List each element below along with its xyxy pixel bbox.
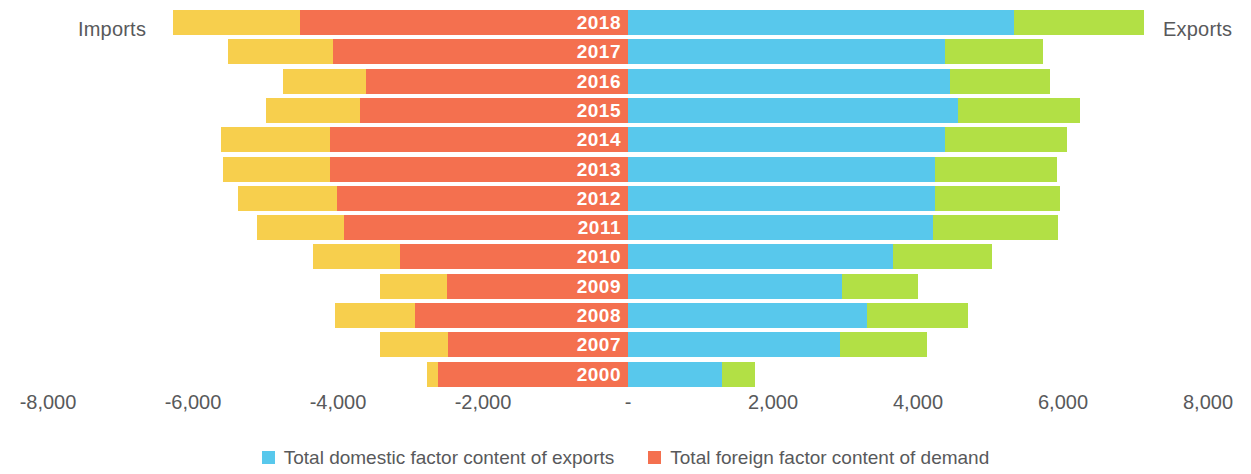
x-axis-tick-label: 4,000 (893, 392, 943, 412)
x-axis: -8,000-6,000-4,000-2,000-2,0004,0006,000… (0, 392, 1251, 420)
bar-segment-foreign-outer (228, 39, 333, 64)
bar-segment-foreign-outer (238, 186, 337, 211)
bar-segment-total-domestic-factor-content-of-exports (628, 10, 1014, 35)
bar-segment-foreign-outer (313, 244, 400, 269)
bar-segment-domestic-outer (1014, 10, 1144, 35)
bar-segment-total-domestic-factor-content-of-exports (628, 39, 945, 64)
bar-segment-total-foreign-factor-content-of-demand (438, 362, 628, 387)
x-axis-tick-label: -8,000 (20, 392, 77, 412)
bar-segment-total-foreign-factor-content-of-demand (300, 10, 628, 35)
bar-segment-domestic-outer (958, 98, 1080, 123)
bar-segment-total-domestic-factor-content-of-exports (628, 69, 950, 94)
x-axis-tick-label: 8,000 (1183, 392, 1233, 412)
bar-segment-domestic-outer (945, 39, 1043, 64)
bar-segment-total-domestic-factor-content-of-exports (628, 127, 945, 152)
bar-segment-foreign-outer (427, 362, 438, 387)
bar-segment-total-foreign-factor-content-of-demand (415, 303, 628, 328)
bar-segment-total-foreign-factor-content-of-demand (447, 274, 628, 299)
bar-segment-foreign-outer (223, 157, 330, 182)
x-axis-tick-label: - (625, 392, 632, 412)
bar-segment-domestic-outer (950, 69, 1050, 94)
bar-segment-foreign-outer (335, 303, 415, 328)
bar-row: 2018 (0, 10, 1251, 35)
bar-segment-total-foreign-factor-content-of-demand (360, 98, 628, 123)
bar-segment-domestic-outer (935, 157, 1057, 182)
bar-segment-total-domestic-factor-content-of-exports (628, 215, 933, 240)
bar-segment-domestic-outer (935, 186, 1060, 211)
bar-segment-total-domestic-factor-content-of-exports (628, 362, 722, 387)
bar-row: 2013 (0, 157, 1251, 182)
bar-row: 2017 (0, 39, 1251, 64)
bar-segment-domestic-outer (933, 215, 1058, 240)
bar-segment-total-domestic-factor-content-of-exports (628, 274, 842, 299)
bar-segment-domestic-outer (945, 127, 1067, 152)
bar-segment-total-domestic-factor-content-of-exports (628, 186, 935, 211)
bar-row: 2015 (0, 98, 1251, 123)
bar-segment-total-foreign-factor-content-of-demand (337, 186, 628, 211)
bar-row: 2008 (0, 303, 1251, 328)
legend-swatch-icon (262, 451, 275, 464)
bar-segment-foreign-outer (380, 274, 447, 299)
bar-segment-domestic-outer (722, 362, 755, 387)
bar-segment-total-foreign-factor-content-of-demand (366, 69, 628, 94)
bar-segment-domestic-outer (842, 274, 918, 299)
bar-row: 2007 (0, 332, 1251, 357)
bar-segment-total-foreign-factor-content-of-demand (333, 39, 628, 64)
bar-row: 2016 (0, 69, 1251, 94)
bar-row: 2000 (0, 362, 1251, 387)
bar-segment-total-domestic-factor-content-of-exports (628, 98, 958, 123)
chart-legend: Total domestic factor content of exports… (0, 443, 1251, 471)
bar-segment-foreign-outer (266, 98, 360, 123)
bar-row: 2012 (0, 186, 1251, 211)
bar-segment-total-foreign-factor-content-of-demand (330, 157, 628, 182)
diverging-stacked-bar-chart: Imports Exports 201820172016201520142013… (0, 0, 1251, 474)
bar-segment-total-domestic-factor-content-of-exports (628, 332, 840, 357)
bar-row: 2014 (0, 127, 1251, 152)
bar-segment-total-domestic-factor-content-of-exports (628, 157, 935, 182)
legend-item: Total domestic factor content of exports (262, 448, 615, 467)
x-axis-tick-label: -4,000 (310, 392, 367, 412)
x-axis-tick-label: 6,000 (1038, 392, 1088, 412)
legend-label: Total foreign factor content of demand (670, 448, 989, 467)
bar-segment-foreign-outer (257, 215, 344, 240)
bar-segment-total-foreign-factor-content-of-demand (344, 215, 628, 240)
bar-row: 2011 (0, 215, 1251, 240)
legend-item: Total foreign factor content of demand (648, 448, 989, 467)
bar-segment-total-foreign-factor-content-of-demand (448, 332, 628, 357)
bar-segment-total-foreign-factor-content-of-demand (400, 244, 628, 269)
plot-area: 2018201720162015201420132012201120102009… (0, 10, 1251, 390)
x-axis-tick-label: -2,000 (455, 392, 512, 412)
bar-segment-foreign-outer (173, 10, 300, 35)
legend-label: Total domestic factor content of exports (284, 448, 615, 467)
bar-segment-total-foreign-factor-content-of-demand (330, 127, 628, 152)
bar-segment-domestic-outer (840, 332, 927, 357)
bar-segment-foreign-outer (221, 127, 330, 152)
bar-row: 2010 (0, 244, 1251, 269)
bar-segment-domestic-outer (867, 303, 968, 328)
bar-segment-domestic-outer (893, 244, 992, 269)
bar-row: 2009 (0, 274, 1251, 299)
bar-segment-foreign-outer (380, 332, 448, 357)
bar-segment-total-domestic-factor-content-of-exports (628, 244, 893, 269)
x-axis-tick-label: -6,000 (165, 392, 222, 412)
x-axis-tick-label: 2,000 (748, 392, 798, 412)
bar-segment-foreign-outer (283, 69, 366, 94)
bar-segment-total-domestic-factor-content-of-exports (628, 303, 867, 328)
legend-swatch-icon (648, 451, 661, 464)
